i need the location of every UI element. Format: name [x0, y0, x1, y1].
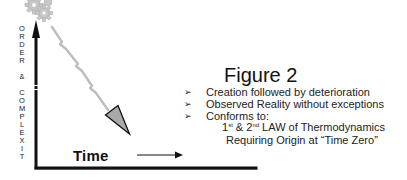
lightning-bolt-icon: [52, 27, 108, 110]
bullet-text: Observed Reality without exceptions: [206, 98, 384, 110]
figure-title: Figure 2: [224, 64, 297, 87]
x-axis: [35, 167, 258, 170]
bullet-arrow-icon: ➢: [184, 98, 194, 110]
figure-2-diagram: O R D E R & C O M P L E X I T Time Figur…: [0, 0, 407, 180]
y-axis-label: O R D E R & C O M P L E X I T: [16, 25, 28, 161]
time-arrow-icon: [137, 152, 183, 159]
x-axis-label: Time: [73, 147, 109, 164]
thermodynamics-law-line: 1st & 2nd LAW of Thermodynamics: [222, 121, 385, 133]
origin-line: Requiring Origin at “Time Zero”: [226, 134, 378, 146]
bullet-arrow-icon: ➢: [184, 110, 194, 122]
y-axis: [32, 20, 40, 169]
gears-icon: [25, 0, 53, 22]
bullet-arrow-icon: ➢: [184, 86, 194, 98]
y-letter: R: [16, 57, 28, 65]
law-text: LAW of Thermodynamics: [259, 121, 385, 133]
bullet-text: Creation followed by deterioration: [206, 86, 370, 98]
y-letter: T: [16, 153, 28, 161]
ordinal-2: & 2: [233, 121, 253, 133]
y-letter: &: [16, 73, 28, 81]
